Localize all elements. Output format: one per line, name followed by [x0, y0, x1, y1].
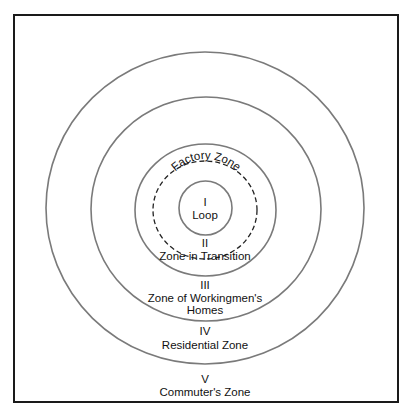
concentric-zone-diagram: Factory Zone I Loop II Zone in Transitio…	[0, 0, 410, 418]
zone-v-numeral: V	[201, 373, 209, 385]
zone-ii-numeral: II	[202, 237, 208, 249]
zone-i-label: Loop	[192, 209, 218, 221]
zone-iii-label-line1: Zone of Workingmen's	[148, 292, 263, 304]
zone-v-label: Commuter's Zone	[159, 386, 250, 398]
loop-boundary	[179, 181, 232, 235]
zone-v-boundary	[46, 52, 364, 364]
zone-ii-label: Zone in Transition	[159, 250, 250, 262]
zone-i-numeral: I	[203, 196, 206, 208]
zone-iv-label: Residential Zone	[162, 339, 248, 351]
factory-zone-label: Factory Zone	[169, 149, 243, 173]
zone-iii-numeral: III	[200, 279, 210, 291]
zone-iii-label-line2: Homes	[187, 304, 224, 316]
zone-iv-numeral: IV	[200, 325, 211, 337]
